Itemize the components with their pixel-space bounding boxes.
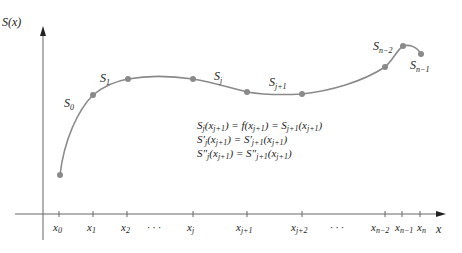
y-axis-arrow-icon	[40, 26, 46, 36]
knot	[400, 43, 406, 49]
knot	[382, 64, 388, 70]
svg-text:xj+1: xj+1	[235, 221, 253, 235]
svg-text:x2: x2	[120, 221, 130, 235]
equation-value: Sj(xj+1) = f(xj+1) = Sj+1(xj+1)	[197, 119, 323, 133]
x-axis-label: x	[435, 222, 442, 236]
svg-text:xn−2: xn−2	[370, 221, 389, 235]
knot	[299, 91, 305, 97]
knot	[57, 172, 63, 178]
knot	[418, 51, 424, 57]
knot	[190, 76, 196, 82]
knot	[90, 92, 96, 98]
equation-second-derivative: S″j(xj+1) = S″j+1(xj+1)	[197, 147, 292, 161]
segment-label-s0: S0	[64, 96, 74, 112]
svg-text:xj: xj	[186, 221, 195, 235]
x-tick-labels: x0 x1 x2 · · · xj xj+1 xj+2 · · · xn−2 x…	[52, 221, 426, 235]
y-axis-label: S(x)	[2, 15, 21, 29]
svg-text:x0: x0	[52, 221, 62, 235]
ellipsis: · · ·	[330, 221, 344, 233]
segment-label-sj1: Sj+1	[269, 75, 287, 91]
cubic-spline-diagram: S(x) x S0 S1 Sj Sj+1 Sn−2 Sn−1 x0 x1 x2 …	[0, 0, 462, 253]
segment-label-sj: Sj	[214, 69, 223, 85]
svg-text:x1: x1	[86, 221, 96, 235]
segment-label-sn2: Sn−2	[373, 39, 392, 55]
x-axis-arrow-icon	[436, 211, 446, 217]
knot	[125, 76, 131, 82]
svg-text:xn−1: xn−1	[394, 221, 413, 235]
svg-text:xn: xn	[416, 221, 426, 235]
svg-text:xj+2: xj+2	[290, 221, 308, 235]
segment-label-s1: S1	[100, 71, 110, 87]
ellipsis: · · ·	[147, 221, 161, 233]
knot	[244, 89, 250, 95]
segment-label-sn1: Sn−1	[410, 58, 429, 74]
equation-first-derivative: S′j(xj+1) = S′j+1(xj+1)	[197, 133, 288, 147]
continuity-equations: Sj(xj+1) = f(xj+1) = Sj+1(xj+1) S′j(xj+1…	[197, 119, 323, 161]
